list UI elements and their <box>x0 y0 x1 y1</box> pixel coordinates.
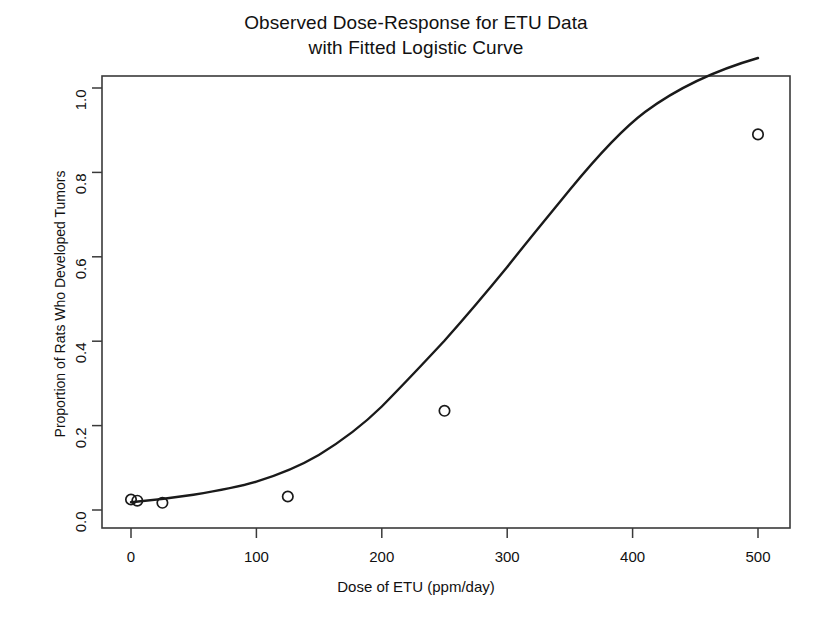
plot-frame <box>102 76 790 528</box>
data-points <box>126 129 763 508</box>
data-point <box>283 491 293 501</box>
x-axis-ticks <box>131 528 758 538</box>
y-tick-label: 1.0 <box>72 90 89 150</box>
y-axis-label: Proportion of Rats Who Developed Tumors <box>52 54 68 554</box>
y-tick-label: 0.2 <box>72 427 89 487</box>
y-tick-label: 0.4 <box>72 343 89 403</box>
chart-figure: Observed Dose-Response for ETU Datawith … <box>0 0 832 629</box>
x-tick-label: 500 <box>745 548 770 565</box>
y-axis-ticks <box>92 88 102 510</box>
y-tick-label: 0.0 <box>72 512 89 572</box>
y-tick-label: 0.8 <box>72 174 89 234</box>
data-point <box>753 129 763 139</box>
y-tick-label: 0.6 <box>72 258 89 318</box>
data-point <box>439 406 449 416</box>
x-tick-label: 400 <box>620 548 645 565</box>
fitted-logistic-curve <box>131 58 758 502</box>
x-axis-label: Dose of ETU (ppm/day) <box>0 578 832 595</box>
plot-area <box>0 0 832 629</box>
x-tick-label: 0 <box>127 548 135 565</box>
x-tick-label: 200 <box>369 548 394 565</box>
x-tick-label: 100 <box>244 548 269 565</box>
x-tick-label: 300 <box>495 548 520 565</box>
